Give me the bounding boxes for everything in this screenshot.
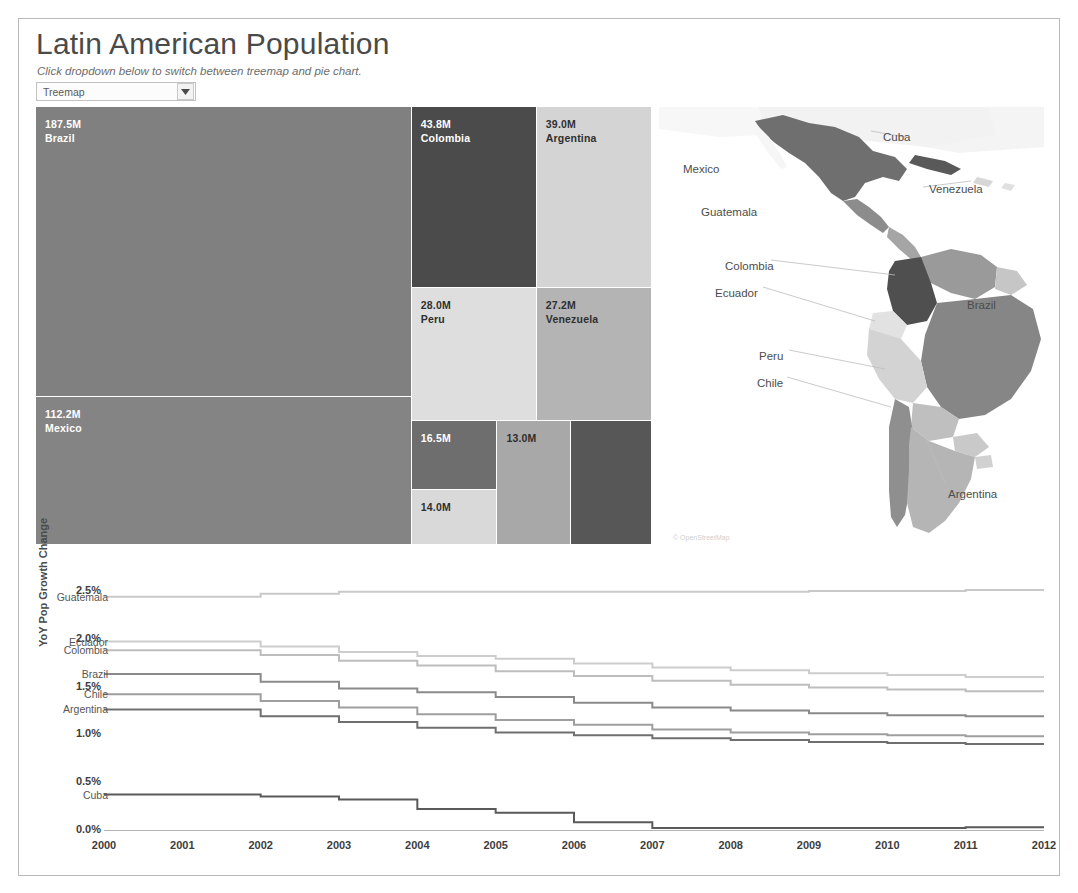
map-label-brazil: Brazil [967, 299, 996, 311]
treemap-cell-label: Venezuela [546, 313, 599, 325]
series-label-colombia: Colombia [64, 644, 108, 656]
treemap-cell-label: Argentina [546, 132, 597, 144]
map-label-cuba: Cuba [883, 131, 911, 143]
treemap-cell-value: 16.5M [421, 432, 451, 444]
map-label-argentina: Argentina [948, 488, 997, 500]
line-chart-plot [19, 547, 1060, 876]
treemap-cell-brazil[interactable]: 187.5MBrazil [36, 107, 412, 397]
x-axis-tick: 2000 [92, 839, 116, 851]
treemap-cell-label: Mexico [45, 422, 82, 434]
treemap-cell-colombia[interactable]: 43.8MColombia [412, 107, 537, 288]
y-axis-tick: 0.0% [53, 823, 101, 835]
latin-america-map[interactable]: © OpenStreetMap MexicoCubaGuatemalaVenez… [659, 107, 1044, 545]
treemap-cell-value: 14.0M [421, 501, 451, 513]
series-label-brazil: Brazil [82, 668, 108, 680]
treemap-cell-9[interactable] [571, 421, 652, 545]
treemap-cell-value: 43.8M [421, 118, 451, 130]
chart-type-select[interactable]: Treemap [36, 82, 196, 101]
treemap-cell-value: 112.2M [45, 408, 81, 420]
treemap-cell-venezuela[interactable]: 27.2MVenezuela [537, 288, 652, 422]
growth-line-chart: YoY Pop Growth Change 0.0%0.5%1.0%1.5%2.… [19, 547, 1060, 876]
line-series-guatemala[interactable] [104, 590, 1044, 597]
x-axis-tick: 2001 [170, 839, 194, 851]
map-label-venezuela: Venezuela [929, 183, 983, 195]
dashboard-container: Latin American Population Click dropdown… [18, 18, 1060, 876]
x-axis-tick: 2005 [483, 839, 507, 851]
treemap-cell-argentina[interactable]: 39.0MArgentina [537, 107, 652, 288]
x-axis-tick: 2004 [405, 839, 429, 851]
x-axis-tick: 2002 [248, 839, 272, 851]
treemap-cell-label: Colombia [421, 132, 470, 144]
map-label-mexico: Mexico [683, 163, 719, 175]
treemap-cell-value: 28.0M [421, 299, 451, 311]
line-series-cuba[interactable] [104, 795, 1044, 828]
series-label-chile: Chile [84, 688, 108, 700]
line-series-colombia[interactable] [104, 650, 1044, 691]
treemap-cell-label: Peru [421, 313, 445, 325]
y-axis-tick: 1.0% [53, 727, 101, 739]
page-title: Latin American Population [36, 27, 390, 61]
x-axis-tick: 2012 [1032, 839, 1056, 851]
map-attribution: © OpenStreetMap [673, 534, 730, 541]
treemap-cell-label: Brazil [45, 132, 75, 144]
series-label-cuba: Cuba [83, 789, 108, 801]
treemap-cell-value: 27.2M [546, 299, 576, 311]
x-axis-tick: 2008 [718, 839, 742, 851]
series-label-argentina: Argentina [63, 703, 108, 715]
y-axis-tick: 0.5% [53, 775, 101, 787]
map-label-guatemala: Guatemala [701, 206, 757, 218]
map-label-chile: Chile [757, 377, 783, 389]
x-axis-tick: 2006 [562, 839, 586, 851]
x-axis-tick: 2003 [327, 839, 351, 851]
treemap-cell-value: 187.5M [45, 118, 81, 130]
treemap-cell-6[interactable]: 16.5M [412, 421, 498, 489]
treemap-cell-peru[interactable]: 28.0MPeru [412, 288, 537, 422]
x-axis-tick: 2010 [875, 839, 899, 851]
x-axis-tick: 2007 [640, 839, 664, 851]
x-axis-tick: 2009 [797, 839, 821, 851]
series-label-guatemala: Guatemala [57, 591, 108, 603]
map-label-colombia: Colombia [725, 260, 774, 272]
x-axis-tick: 2011 [954, 839, 978, 851]
map-label-peru: Peru [759, 350, 783, 362]
treemap-cell-value: 39.0M [546, 118, 576, 130]
dashboard-header: Latin American Population Click dropdown… [19, 19, 1059, 101]
treemap-cell-7[interactable]: 14.0M [412, 490, 498, 545]
page-subtitle: Click dropdown below to switch between t… [37, 65, 362, 77]
treemap-cell-value: 13.0M [506, 432, 536, 444]
map-label-ecuador: Ecuador [715, 287, 758, 299]
treemap-chart[interactable]: 187.5MBrazil112.2MMexico43.8MColombia39.… [36, 107, 652, 545]
treemap-cell-mexico[interactable]: 112.2MMexico [36, 397, 412, 545]
chart-type-select-value: Treemap [37, 86, 177, 98]
treemap-cell-8[interactable]: 13.0M [497, 421, 571, 545]
chevron-down-icon[interactable] [177, 83, 194, 100]
